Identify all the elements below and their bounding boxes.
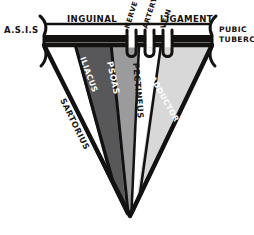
gap-nerve [129,35,135,48]
muscle-regions [42,44,216,222]
label-pubic-tubercle-line1: PUBIC [219,25,247,34]
gap-artery [147,35,153,48]
label-inguinal: INGUINAL [67,14,117,24]
label-nerve: NERVE [123,0,139,29]
gap-vein [165,35,171,48]
label-pubic-tubercle-line2: TUBERCLE [219,35,254,44]
label-asis: A.S.I.S [4,25,39,35]
femoral-triangle-diagram: A.S.I.S PUBIC TUBERCLE INGUINAL LIGAMENT… [0,0,254,235]
diagram-canvas: A.S.I.S PUBIC TUBERCLE INGUINAL LIGAMENT… [0,0,254,235]
asis-bracket [40,16,46,66]
